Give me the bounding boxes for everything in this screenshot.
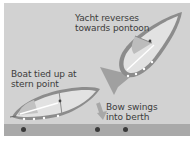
label-yacht-reverses: Yacht reverses towards pontoon [75, 13, 149, 33]
label-boat-tied: Boat tied up at stern point [11, 69, 77, 89]
yacht-moored-icon [10, 87, 100, 120]
mooring-post [21, 127, 26, 132]
mooring-post [95, 127, 100, 132]
label-bow-swings: Bow swings into berth [106, 102, 158, 122]
diagram-panel: Yacht reverses towards pontoon Boat tied… [4, 3, 190, 136]
mooring-post [123, 127, 128, 132]
